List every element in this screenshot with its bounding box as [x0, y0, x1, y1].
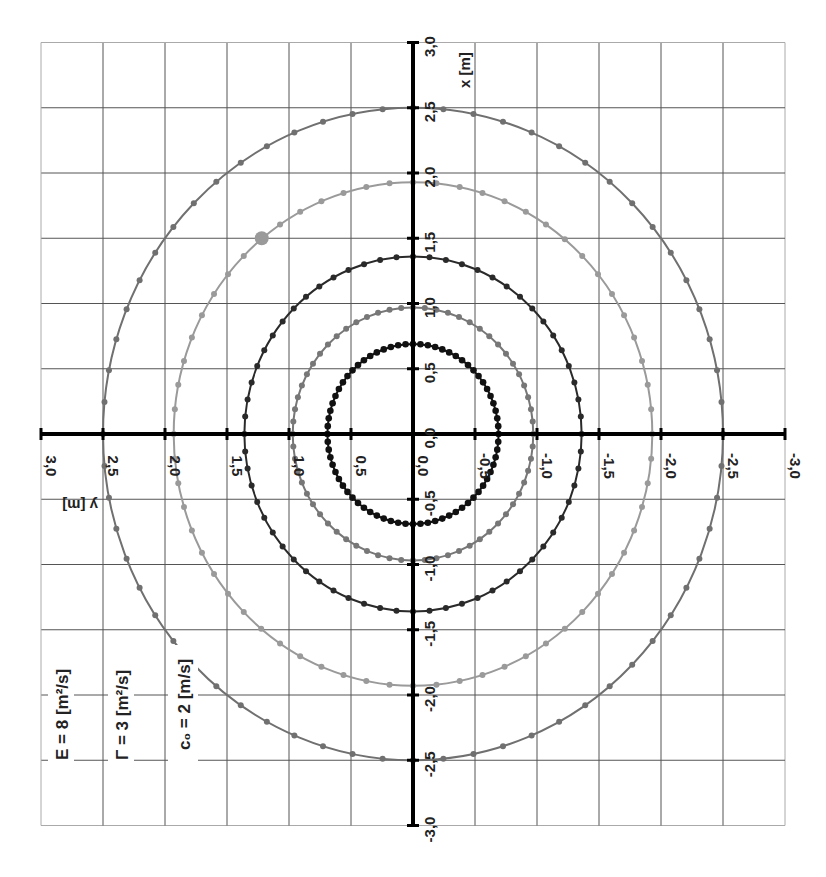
circle-5-point: [350, 111, 356, 117]
circle-2-point: [503, 511, 509, 517]
circle-1-point: [402, 520, 409, 527]
circle-5-point: [238, 702, 244, 708]
circle-2-point: [325, 341, 331, 347]
circle-5-point: [170, 638, 176, 644]
circle-3-point: [303, 294, 309, 300]
circle-3-point: [427, 254, 433, 260]
circle-2-point: [398, 557, 404, 563]
circle-1-point: [344, 489, 351, 496]
circle-2-point: [299, 479, 305, 485]
circle-3-point: [249, 379, 255, 385]
y-tick-label: 0,5: [353, 456, 370, 477]
circle-1-point: [361, 504, 368, 511]
circle-5-point: [440, 756, 446, 762]
circle-4-point: [258, 626, 264, 632]
circle-5-point: [683, 585, 689, 591]
circle-2-point: [387, 555, 393, 561]
circle-5-point: [124, 556, 130, 562]
circle-1-point: [432, 518, 439, 525]
circle-5-point: [500, 119, 506, 125]
circle-1-point: [336, 386, 343, 393]
circle-1-point: [425, 519, 432, 526]
circle-1-point: [327, 454, 334, 461]
circle-2-point: [317, 511, 323, 517]
circle-3-point: [550, 530, 556, 536]
circle-1-point: [380, 515, 387, 522]
circle-2-point: [334, 529, 340, 535]
circle-4-point: [211, 571, 217, 577]
circle-2-point: [292, 406, 298, 412]
circle-2-point: [290, 443, 296, 449]
circle-5-point: [529, 732, 535, 738]
circle-3-point: [316, 283, 322, 289]
circle-5-point: [213, 683, 219, 689]
circle-2-point: [456, 314, 462, 320]
circle-4-point: [621, 312, 627, 318]
circle-4-point: [639, 504, 645, 510]
circle-1-point: [380, 346, 387, 353]
circle-1-point: [439, 515, 446, 522]
y-tick-label: -1,5: [601, 453, 618, 479]
circle-5-point: [529, 130, 535, 136]
circle-4-point: [387, 180, 393, 186]
circle-5-point: [629, 662, 635, 668]
circle-4-point: [363, 678, 369, 684]
circle-5-point: [291, 732, 297, 738]
circle-4-point: [648, 456, 654, 462]
y-tick-label: 2,0: [167, 456, 184, 477]
y-tick-label: 1,0: [291, 456, 308, 477]
circle-1-point: [336, 476, 343, 483]
circle-4-point: [277, 222, 283, 228]
circle-2-point: [516, 371, 522, 377]
circle-4-point: [479, 190, 485, 196]
circle-2-point: [445, 310, 451, 316]
x-tick-label: 2,5: [421, 101, 438, 122]
circle-2-point: [486, 529, 492, 535]
circle-5-point: [707, 526, 713, 532]
circle-4-point: [645, 480, 651, 486]
y-tick-label: 0,0: [415, 456, 432, 477]
circle-1-point: [470, 494, 477, 501]
circle-2-point: [295, 394, 301, 400]
circle-4-point: [318, 664, 324, 670]
circle-1-point: [327, 407, 334, 414]
circle-2-point: [467, 319, 473, 325]
circle-4-point: [363, 184, 369, 190]
circle-1-point: [470, 367, 477, 374]
y-tick-label: 1,5: [229, 456, 246, 477]
circle-4-point: [341, 190, 347, 196]
circle-5-point: [152, 250, 158, 256]
circle-3-point: [377, 605, 383, 611]
y-tick-label: -2,0: [663, 453, 680, 479]
circle-1-point: [459, 504, 466, 511]
x-axis-title: x [m]: [456, 52, 473, 88]
circle-4-point: [225, 591, 231, 597]
circle-4-point: [523, 209, 529, 215]
circle-4-point: [562, 236, 568, 242]
circle-4-point: [175, 480, 181, 486]
x-tick-label: 1,0: [421, 297, 438, 318]
circle-3-point: [504, 579, 510, 585]
circle-4-point: [241, 253, 247, 259]
circle-3-point: [578, 414, 584, 420]
circle-2-point: [445, 552, 451, 558]
circle-5-point: [719, 463, 725, 469]
circle-4-point: [543, 222, 549, 228]
circle-5-point: [320, 119, 326, 125]
circle-5-point: [668, 250, 674, 256]
circle-1-point: [367, 353, 374, 360]
circle-5-point: [152, 612, 158, 618]
circle-2-point: [325, 521, 331, 527]
circle-3-point: [529, 556, 535, 562]
circle-1-point: [452, 353, 459, 360]
circle-3-point: [475, 267, 481, 273]
circle-4-point: [562, 626, 568, 632]
circle-3-point: [270, 332, 276, 338]
circle-3-point: [489, 588, 495, 594]
circle-2-point: [528, 456, 534, 462]
circle-3-point: [559, 347, 565, 353]
circle-1-point: [340, 482, 347, 489]
circle-5-point: [714, 495, 720, 501]
circle-5-point: [191, 200, 197, 206]
circle-1-point: [495, 439, 502, 446]
